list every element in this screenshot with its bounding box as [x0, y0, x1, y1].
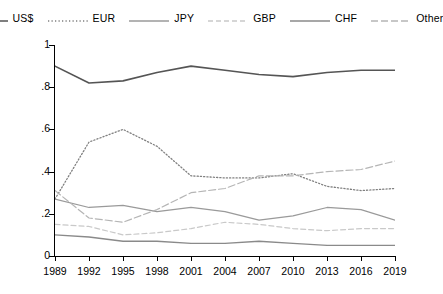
x-tick-mark	[395, 256, 396, 261]
y-tick-label: .2	[28, 207, 50, 219]
legend-item-chf[interactable]: CHF	[290, 13, 357, 23]
legend-label: US$	[13, 13, 34, 23]
series-line-jpy	[55, 199, 395, 220]
x-tick-mark	[293, 256, 294, 261]
legend-item-eur[interactable]: EUR	[48, 13, 116, 23]
y-tick-label: 0	[28, 249, 50, 261]
legend-label: JPY	[174, 13, 194, 23]
legend-item-other[interactable]: Other	[371, 13, 443, 23]
y-tick-label: .8	[28, 80, 50, 92]
x-tick-mark	[89, 256, 90, 261]
legend-item-us[interactable]: US$	[0, 13, 34, 23]
x-tick-mark	[123, 256, 124, 261]
series-line-us	[55, 66, 395, 83]
series-line-chf	[55, 235, 395, 246]
x-tick-mark	[191, 256, 192, 261]
y-tick-label: .4	[28, 165, 50, 177]
y-tick-label: 1	[28, 38, 50, 50]
x-tick-label: 2019	[375, 265, 415, 277]
x-tick-mark	[259, 256, 260, 261]
series-line-gbp	[55, 222, 395, 235]
series-lines	[55, 45, 395, 256]
chart-legend: US$EURJPYGBPCHFOther	[0, 8, 411, 28]
x-tick-mark	[225, 256, 226, 261]
x-tick-mark	[327, 256, 328, 261]
legend-label: GBP	[253, 13, 276, 23]
legend-item-jpy[interactable]: JPY	[129, 13, 194, 23]
series-line-other	[55, 161, 395, 222]
x-tick-mark	[361, 256, 362, 261]
x-tick-mark	[157, 256, 158, 261]
y-tick-label: .6	[28, 122, 50, 134]
legend-label: Other	[416, 13, 443, 23]
legend-item-gbp[interactable]: GBP	[208, 13, 276, 23]
legend-label: EUR	[93, 13, 116, 23]
plot-area	[55, 45, 395, 256]
legend-label: CHF	[335, 13, 357, 23]
x-tick-mark	[55, 256, 56, 261]
